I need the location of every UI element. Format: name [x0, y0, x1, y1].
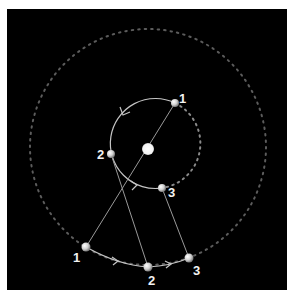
outer-direction-arrow-1: [112, 257, 118, 265]
orbit-diagram: 1 2 3 1 2 3: [0, 0, 296, 297]
connection-line-1: [86, 103, 175, 247]
connection-line-3: [162, 188, 189, 258]
inner-ball-1: [171, 99, 179, 107]
outer-label-1: 1: [73, 250, 80, 265]
inner-orbit-path: [110, 98, 175, 188]
connection-line-2: [111, 154, 148, 267]
inner-label-2: 2: [97, 147, 104, 162]
outer-label-2: 2: [148, 273, 155, 288]
outer-ball-3: [185, 254, 194, 263]
inner-ball-2: [107, 150, 115, 158]
inner-label-3: 3: [168, 185, 175, 200]
inner-orbit-dotted-arc: [162, 103, 200, 188]
outer-label-3: 3: [193, 263, 200, 278]
outer-ball-1: [82, 243, 91, 252]
inner-ball-3: [158, 184, 166, 192]
outer-ball-2: [144, 263, 153, 272]
central-body: [142, 143, 154, 155]
inner-label-1: 1: [179, 91, 186, 106]
